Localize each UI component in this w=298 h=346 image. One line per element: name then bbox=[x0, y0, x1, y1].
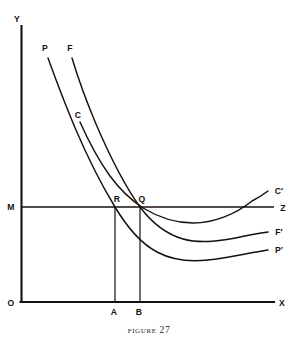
origin-label: O bbox=[8, 298, 15, 308]
x-axis-label: X bbox=[279, 298, 285, 308]
curve-p-pprime bbox=[48, 58, 268, 261]
curve-label-c-end: C′ bbox=[275, 186, 284, 196]
figure-caption-word: Figure bbox=[128, 324, 157, 335]
figure-caption-number: 27 bbox=[160, 324, 171, 335]
point-label-q: Q bbox=[139, 194, 146, 204]
z-axis-label: Z bbox=[280, 203, 285, 213]
point-label-r: R bbox=[114, 194, 121, 204]
curve-label-p-start: P bbox=[42, 43, 48, 53]
curve-label-f-start: F bbox=[67, 43, 72, 53]
curve-label-p-end: P′ bbox=[275, 245, 283, 255]
curve-label-c-start: C bbox=[75, 110, 81, 120]
curve-c-cprime bbox=[80, 122, 268, 223]
y-axis-label: Y bbox=[14, 14, 20, 24]
curve-f-fprime bbox=[72, 58, 268, 242]
curve-label-f-end: F′ bbox=[275, 227, 283, 237]
m-axis-label: M bbox=[7, 202, 14, 212]
figure-drawing: Y X O M Z R Q A B P F C C′ F′ P′ bbox=[0, 0, 298, 346]
figure-caption: Figure27 bbox=[0, 324, 298, 335]
point-label-a: A bbox=[111, 307, 117, 317]
figure-27-container: Y X O M Z R Q A B P F C C′ F′ P′ Figure2… bbox=[0, 0, 298, 346]
point-label-b: B bbox=[136, 307, 142, 317]
